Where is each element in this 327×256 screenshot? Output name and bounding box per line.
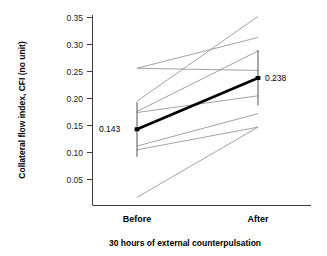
y-tick-label-035: 0.35 — [66, 13, 83, 23]
y-axis-title: Collateral flow index, CFI (no unit) — [17, 41, 27, 179]
y-tick-label-030: 0.30 — [66, 40, 83, 50]
x-axis-title: 30 hours of external counterpulsation — [109, 238, 261, 248]
chart-figure: 0.35 0.30 0.25 0.20 0.15 0.10 0.05 0.143… — [0, 0, 327, 256]
y-tick-label-005: 0.05 — [66, 175, 83, 185]
mean-marker-after — [256, 76, 261, 80]
mean-after-label: 0.238 — [265, 73, 287, 83]
x-category-label-before: Before — [123, 214, 152, 224]
y-tick-label-025: 0.25 — [66, 67, 83, 77]
chart-background — [0, 0, 327, 256]
x-category-label-after: After — [247, 214, 268, 224]
mean-marker-before — [135, 127, 140, 131]
y-tick-label-015: 0.15 — [66, 121, 83, 131]
y-tick-label-010: 0.10 — [66, 148, 83, 158]
mean-before-label: 0.143 — [99, 124, 121, 134]
collateral-flow-index-line-chart: 0.35 0.30 0.25 0.20 0.15 0.10 0.05 0.143… — [0, 0, 327, 256]
y-tick-label-020: 0.20 — [66, 94, 83, 104]
